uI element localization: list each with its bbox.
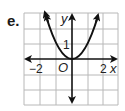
x-axis-label: x xyxy=(109,61,117,76)
x-tick-2: 2 xyxy=(100,62,107,76)
y-tick-1: 1 xyxy=(63,38,70,52)
origin-label: O xyxy=(58,60,68,75)
parabola-graph: y x 1 −2 2 O xyxy=(0,0,125,111)
x-tick-neg2: −2 xyxy=(29,62,43,76)
